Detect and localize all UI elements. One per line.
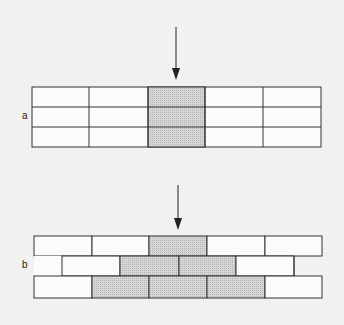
panel-a-grid bbox=[32, 87, 321, 147]
diagram bbox=[0, 0, 344, 325]
arrow-down-icon bbox=[174, 185, 182, 230]
panel-b-grid bbox=[34, 236, 322, 298]
arrow-down-icon bbox=[172, 27, 180, 80]
